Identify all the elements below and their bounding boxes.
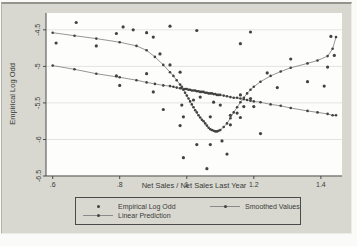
- linear-prediction-marker: [239, 97, 242, 100]
- scatter-point: [239, 93, 242, 96]
- linear-prediction-marker: [236, 97, 239, 100]
- linear-prediction-marker: [331, 114, 334, 117]
- smoothed-values-marker: [179, 83, 182, 86]
- scatter-point: [179, 71, 182, 74]
- linear-prediction-marker: [289, 107, 292, 110]
- scatter-point: [145, 72, 148, 75]
- linear-prediction-marker: [172, 86, 175, 89]
- scatter-point: [209, 143, 212, 146]
- legend: Empirical Log Odd Smoothed Values Linear…: [75, 197, 301, 225]
- scatter-point: [326, 66, 329, 69]
- smoothed-values-marker: [169, 71, 172, 74]
- y-axis-title: Empirical Log Odd: [8, 13, 18, 176]
- scatter-point: [229, 114, 232, 117]
- linear-prediction-marker: [135, 79, 138, 82]
- smoothed-values-marker: [196, 111, 199, 114]
- scatter-point: [306, 80, 309, 83]
- scatter-point: [115, 74, 118, 77]
- linear-prediction-marker: [253, 100, 256, 103]
- scatter-point: [182, 115, 185, 118]
- scatter-point: [145, 31, 148, 34]
- scatter-point: [152, 36, 155, 39]
- linear-prediction-marker: [219, 94, 222, 97]
- linear-prediction-marker: [154, 83, 157, 86]
- linear-prediction-marker: [145, 81, 148, 84]
- scatter-point: [199, 96, 202, 99]
- y-tick-label: -5.5: [35, 97, 42, 109]
- scatter-point: [212, 101, 215, 104]
- linear-prediction-marker: [246, 99, 249, 102]
- y-tick-label: -4.5: [35, 24, 42, 36]
- smoothed-values-marker: [189, 100, 192, 103]
- smoothed-values-marker: [192, 106, 195, 109]
- linear-prediction-marker: [269, 103, 272, 106]
- scatter-point: [158, 52, 161, 55]
- linear-prediction-marker: [175, 86, 178, 89]
- scatter-point: [239, 116, 242, 119]
- scatter-point: [182, 156, 185, 159]
- scatter-point: [209, 115, 212, 118]
- linear-prediction-marker: [326, 113, 329, 116]
- smoothed-values-marker: [279, 70, 282, 73]
- scatter-point: [115, 32, 118, 35]
- smoothed-values-marker: [326, 55, 329, 58]
- scatter-point: [168, 25, 171, 28]
- legend-label-linear: Linear Prediction: [118, 212, 171, 219]
- smoothed-values-marker: [51, 31, 54, 34]
- y-tick-label: -5: [35, 63, 42, 69]
- legend-row-2: Linear Prediction: [76, 212, 300, 219]
- linear-prediction-marker: [335, 114, 338, 117]
- scatter-point: [152, 90, 155, 93]
- linear-prediction-marker: [162, 84, 165, 87]
- smoothed-values-marker: [206, 124, 209, 127]
- legend-label-smoothed: Smoothed Values: [245, 203, 300, 210]
- smoothed-values-marker: [202, 120, 205, 123]
- smoothed-line-icon: [210, 203, 240, 210]
- scatter-point: [229, 123, 232, 126]
- smoothed-values-marker: [239, 101, 242, 104]
- scatter-point: [195, 143, 198, 146]
- linear-prediction-marker: [279, 105, 282, 108]
- linear-prediction-marker: [226, 95, 229, 98]
- linear-prediction-marker: [118, 76, 121, 79]
- smoothed-values-marker: [246, 92, 249, 95]
- linear-prediction-marker: [316, 111, 319, 114]
- scatter-point: [239, 42, 242, 45]
- smoothed-values-marker: [253, 86, 256, 89]
- scatter-point: [118, 84, 121, 87]
- scatter-point: [289, 57, 292, 60]
- scatter-point: [180, 104, 183, 107]
- scatter-point: [205, 167, 208, 170]
- linear-prediction-marker: [169, 85, 172, 88]
- scatter-point: [333, 54, 336, 57]
- scatter-marker-icon: [83, 203, 113, 210]
- smoothed-values-marker: [236, 106, 239, 109]
- scatter-point: [323, 85, 326, 88]
- smoothed-values-marker: [306, 62, 309, 65]
- linear-prediction-marker: [229, 96, 232, 99]
- smoothed-values-marker: [191, 103, 194, 106]
- smoothed-values-marker: [95, 37, 98, 40]
- scatter-point: [179, 124, 182, 127]
- scatter-point: [122, 25, 125, 28]
- smoothed-values-marker: [289, 67, 292, 70]
- smoothed-values-marker: [187, 97, 190, 100]
- smoothed-values-marker: [194, 109, 197, 112]
- smoothed-values-marker: [199, 116, 202, 119]
- scatter-point: [219, 104, 222, 107]
- smoothed-values-marker: [145, 49, 148, 52]
- smoothed-values-marker: [118, 41, 121, 44]
- scatter-point: [329, 35, 332, 38]
- scatter-point: [95, 44, 98, 47]
- smoothed-values-marker: [316, 59, 319, 62]
- y-tick-label: -6.5: [35, 170, 42, 182]
- linear-prediction-marker: [222, 94, 225, 97]
- scatter-point: [249, 30, 252, 33]
- linear-prediction-marker: [95, 72, 98, 75]
- x-axis-title: Net Sales / Net Sales Last Year: [46, 181, 342, 190]
- smoothed-values-marker: [182, 88, 185, 91]
- smoothed-values-marker: [229, 117, 232, 120]
- scatter-point: [266, 71, 269, 74]
- smoothed-values-marker: [186, 94, 189, 97]
- smoothed-values-marker: [331, 48, 334, 51]
